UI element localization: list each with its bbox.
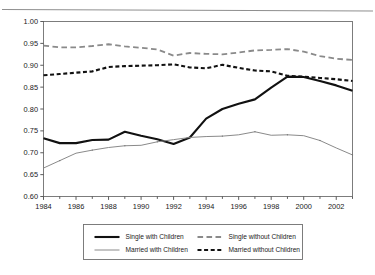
series-line-single-without-children bbox=[44, 44, 353, 60]
chart-legend: Single with ChildrenSingle without Child… bbox=[84, 225, 303, 260]
line-chart: 0.600.650.700.750.800.850.900.951.00 198… bbox=[0, 0, 375, 275]
x-tick-label-0: 1984 bbox=[35, 202, 51, 211]
x-tick-label-9: 2002 bbox=[328, 202, 344, 211]
y-tick-label-1: 0.65 bbox=[24, 170, 38, 179]
y-tick-label-7: 0.95 bbox=[24, 39, 38, 48]
x-tick-label-2: 1988 bbox=[100, 202, 116, 211]
x-axis-labels: 1984198619881990199219941996199820002002 bbox=[35, 202, 344, 211]
x-tick-label-7: 1998 bbox=[263, 202, 279, 211]
series-line-married-with-children bbox=[44, 132, 353, 168]
x-tick-label-8: 2000 bbox=[295, 202, 311, 211]
legend-label-married-with-children: Married with Children bbox=[126, 246, 189, 253]
y-tick-label-0: 0.60 bbox=[24, 192, 38, 201]
y-tick-label-2: 0.70 bbox=[24, 148, 38, 157]
x-tick-label-5: 1994 bbox=[198, 202, 214, 211]
y-axis-labels: 0.600.650.700.750.800.850.900.951.00 bbox=[24, 17, 38, 201]
legend-label-married-without-children: Married without Children bbox=[229, 246, 301, 253]
y-tick-label-8: 1.00 bbox=[24, 17, 38, 26]
legend-label-single-without-children: Single without Children bbox=[229, 233, 297, 241]
legend-label-single-with-children: Single with Children bbox=[126, 233, 185, 241]
x-tick-label-6: 1996 bbox=[230, 202, 246, 211]
x-tick-label-1: 1986 bbox=[68, 202, 84, 211]
x-axis-ticks bbox=[44, 197, 353, 200]
x-tick-label-3: 1990 bbox=[133, 202, 149, 211]
y-tick-label-5: 0.85 bbox=[24, 83, 38, 92]
series-line-single-with-children bbox=[44, 77, 353, 144]
y-tick-label-4: 0.80 bbox=[24, 105, 38, 114]
x-tick-label-4: 1992 bbox=[165, 202, 181, 211]
y-tick-label-6: 0.90 bbox=[24, 61, 38, 70]
plot-frame bbox=[44, 22, 353, 197]
series-lines bbox=[44, 44, 354, 168]
chart-page: 0.600.650.700.750.800.850.900.951.00 198… bbox=[0, 0, 375, 275]
y-tick-label-3: 0.75 bbox=[24, 126, 38, 135]
y-axis-ticks bbox=[40, 22, 43, 197]
